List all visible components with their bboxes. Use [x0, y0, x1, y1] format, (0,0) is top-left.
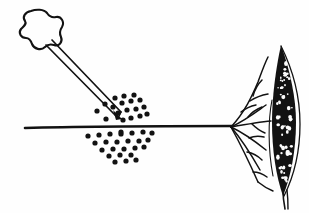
particle-dot [102, 101, 107, 106]
lens-speckle [285, 73, 287, 77]
particle-dot [117, 152, 122, 157]
particle-dot [141, 104, 146, 109]
lens-speckle [286, 76, 288, 78]
lens-speckle [280, 87, 283, 89]
particle-dot [144, 111, 149, 116]
lens-speckle [279, 116, 281, 119]
dispersed-particles [85, 92, 154, 164]
particle-dot [110, 104, 115, 109]
lens-speckle [283, 79, 285, 81]
lens-speckle [287, 106, 291, 110]
lens-speckle [279, 101, 281, 104]
lens-speckle [289, 152, 293, 155]
lens-speckle [276, 102, 278, 105]
particle-dot [133, 157, 138, 162]
particle-dot [137, 97, 142, 102]
lens-speckle [289, 118, 293, 122]
particle-dot [119, 100, 124, 105]
lens-speckle [280, 170, 283, 174]
particle-dot [110, 146, 115, 151]
particle-dot [128, 115, 133, 120]
lens-speckle [276, 155, 280, 160]
particle-dot [149, 130, 154, 135]
lens-speckle [280, 144, 283, 147]
particle-dot [99, 147, 104, 152]
lens-speckle [281, 134, 283, 137]
particle-dot [137, 113, 142, 118]
particle-dot [115, 110, 120, 115]
horizontal-surface-line [25, 126, 232, 128]
particle-dot [125, 138, 130, 143]
lens-speckle [284, 84, 286, 86]
particle-dot [121, 146, 126, 151]
lens-speckle [280, 94, 282, 96]
particle-dot [131, 92, 136, 97]
particle-dot [121, 93, 126, 98]
lens-speckle [281, 125, 284, 127]
particle-dot [123, 158, 128, 163]
particle-dot [96, 132, 101, 137]
particle-dot [120, 117, 125, 122]
particle-dot [118, 129, 123, 134]
lens-speckle [282, 80, 284, 82]
lens-speckle [285, 146, 288, 149]
lens-speckle [285, 176, 288, 180]
lens-speckle [283, 68, 286, 71]
lens-speckle [290, 145, 293, 148]
particle-dot [128, 152, 133, 157]
lens-speckle [280, 77, 282, 79]
particle-dot [94, 108, 99, 113]
particle-dot [103, 139, 108, 144]
branching-root-network [231, 57, 273, 191]
lens-speckle [288, 126, 292, 130]
particle-dot [133, 106, 138, 111]
line-art-figure [0, 0, 309, 213]
lens-speckle [280, 152, 282, 154]
lens-speckle [286, 130, 289, 134]
particle-dot [106, 153, 111, 158]
lens-speckle [291, 107, 293, 109]
particle-dot [103, 116, 108, 121]
particle-dot [112, 159, 117, 164]
lens-speckle [280, 79, 282, 81]
lens-speckle [287, 93, 289, 95]
lens-speckle [282, 167, 284, 169]
lens-speckle [283, 172, 285, 174]
particle-dot [107, 131, 112, 136]
particle-dot [132, 145, 137, 150]
syringe-plunger-handle [20, 10, 63, 49]
particle-dot [85, 133, 90, 138]
lens-speckle [288, 164, 292, 167]
lens-speckle [276, 123, 280, 126]
particle-dot [145, 137, 150, 142]
particle-dot [136, 138, 141, 143]
particle-dot [112, 95, 117, 100]
particle-dot [92, 140, 97, 145]
particle-dot [114, 139, 119, 144]
lens-speckle [281, 95, 285, 99]
particle-dot [128, 98, 133, 103]
particle-dot [124, 107, 129, 112]
illustration-canvas: Injection into branching structure with … [0, 0, 309, 213]
particle-dot [141, 144, 146, 149]
particle-dot [129, 130, 134, 135]
lens-speckle [277, 87, 279, 89]
needle-shaft [46, 40, 121, 118]
particle-dot [140, 129, 145, 134]
